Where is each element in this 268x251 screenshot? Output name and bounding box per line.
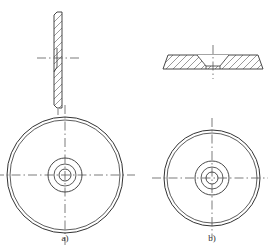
- hatch-line: [69, 10, 171, 112]
- hatch-line: [27, 10, 129, 112]
- hatch-line: [34, 10, 136, 112]
- hatch-line: [20, 10, 122, 112]
- caption-right: b): [208, 233, 216, 243]
- hatch-line: [139, 10, 241, 112]
- drawing-svg: a) b): [0, 0, 268, 251]
- hatch-line: [230, 53, 252, 75]
- hatch-line: [153, 53, 175, 75]
- hatch-line: [0, 10, 59, 112]
- hatch-line: [111, 10, 213, 112]
- hatch-line: [0, 10, 101, 112]
- hatch-line: [0, 10, 52, 112]
- hatch-line: [167, 53, 189, 75]
- hatch-line: [244, 53, 266, 75]
- left-section-group: [0, 10, 268, 112]
- right-section-group: [139, 53, 268, 75]
- left-section-centerlines: [37, 58, 79, 115]
- hatch-line: [55, 10, 157, 112]
- hatch-line: [174, 53, 196, 75]
- hatch-line: [41, 10, 143, 112]
- hatch-line: [258, 53, 268, 75]
- hatch-line: [13, 10, 115, 112]
- hatch-line: [139, 53, 161, 75]
- right-outer-rim-circle: [164, 130, 260, 226]
- hatch-line: [237, 53, 259, 75]
- hatch-line: [146, 10, 248, 112]
- hatch-line: [265, 53, 268, 75]
- left-circle-group: [0, 105, 135, 245]
- right-circle-group: [152, 118, 268, 238]
- hatch-line: [62, 10, 164, 112]
- hatch-line: [48, 10, 150, 112]
- hatch-line: [0, 10, 94, 112]
- hatch-line: [97, 10, 199, 112]
- hatch-line: [104, 10, 206, 112]
- hatch-line: [90, 10, 192, 112]
- caption-left: a): [62, 233, 69, 243]
- left-section-hatching: [0, 10, 268, 112]
- hatch-line: [0, 10, 80, 112]
- hatch-line: [76, 10, 178, 112]
- hatch-line: [251, 53, 268, 75]
- hatch-line: [160, 53, 182, 75]
- technical-drawing-canvas: a) b): [0, 0, 268, 251]
- hatch-line: [83, 10, 185, 112]
- hatch-line: [0, 10, 87, 112]
